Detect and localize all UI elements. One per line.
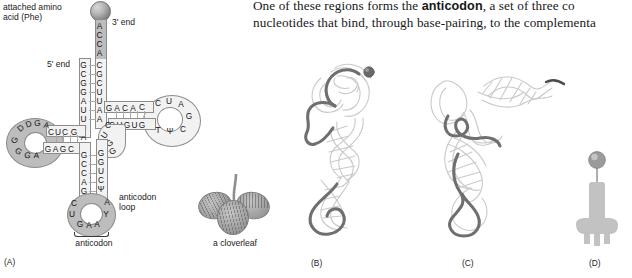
nt-t-stem-top: C (138, 103, 147, 111)
nt-t-loop: U (165, 97, 174, 105)
nt-anticodon-loop: C (70, 199, 79, 207)
anticodon-loop-label: anticodon loop (119, 192, 179, 213)
anticodon-stem-rung (89, 182, 96, 183)
nt-anticodon-loop: Y (102, 210, 111, 218)
body-paragraph: One of these regions forms the anticodon… (253, 0, 632, 30)
nt-anticodon-loop: U (68, 210, 77, 218)
nt-t-loop: C (154, 99, 163, 107)
nt-t-stem-bottom: G (138, 121, 147, 129)
nt-anticodon-loop: A (103, 198, 112, 206)
body-paragraph-line-1: One of these regions forms the anticodon… (253, 0, 632, 15)
body-paragraph-line-2: nucleotides that bind, through base-pair… (253, 15, 632, 31)
nt-t-stem-top: A (129, 104, 138, 112)
anticodon-stem-rung (89, 155, 96, 156)
t-stem-rung (144, 111, 145, 118)
nt-d-loop-top: G (32, 119, 42, 128)
nt-t-loop: G (185, 112, 194, 120)
panel-c-structure-svg (418, 48, 568, 263)
panel-c-ribbon-model: (C) (418, 48, 568, 278)
anticodon-bold-term: anticodon (422, 0, 483, 13)
nt-anticodon-stem-right: Ψ (97, 185, 106, 193)
nt-d-stem-top: G (70, 128, 79, 136)
anticodon-stem-rung (89, 164, 96, 165)
cloverleaf-illustration: a cloverleaf (192, 172, 282, 252)
nt-variable-loop: C (104, 121, 113, 129)
cloverleaf-caption: a cloverleaf (192, 238, 278, 248)
anticodon-bracket (74, 232, 109, 237)
anticodon-caption: anticodon (64, 238, 124, 248)
panel-a-label: (A) (4, 257, 15, 267)
nt-anticodon-loop: G (76, 220, 85, 228)
nt-t-loop: Ψ (166, 127, 175, 135)
nt-t-loop: C (179, 125, 188, 133)
panel-b-ribbon-model: (B) (285, 48, 405, 278)
panel-d-icon-model: (D) (560, 150, 632, 278)
panel-d-trna-icon-svg (560, 150, 632, 260)
nt-d-stem-top: C (61, 128, 70, 136)
body-line1-pre: One of these regions forms the (253, 0, 422, 13)
anticodon-stem-rung (89, 173, 96, 174)
nt-t-loop: T (154, 126, 163, 134)
panel-b-structure-svg (285, 48, 405, 263)
nt-t-loop: A (177, 100, 186, 108)
nt-anticodon-loop: A (93, 220, 102, 228)
anticodon-stem-rung (89, 191, 96, 192)
three-prime-end-label: 3' end (112, 17, 135, 27)
nt-acceptor-3p: A (95, 49, 104, 57)
five-prime-end-label: 5' end (47, 59, 70, 69)
nt-d-loop-bottom: A (32, 151, 41, 160)
panel-b-label: (B) (311, 258, 322, 268)
nt-d-stem-bottom: C (67, 145, 76, 153)
cloverleaf-leaf-center (217, 200, 249, 235)
nt-d-loop-bottom: G (22, 150, 33, 160)
panel-d-label: (D) (589, 258, 601, 268)
panel-c-label: (C) (462, 258, 474, 268)
attached-amino-acid-label: attached amino acid (Phe) (3, 2, 98, 23)
body-line1-post: , a set of three co (483, 0, 575, 13)
